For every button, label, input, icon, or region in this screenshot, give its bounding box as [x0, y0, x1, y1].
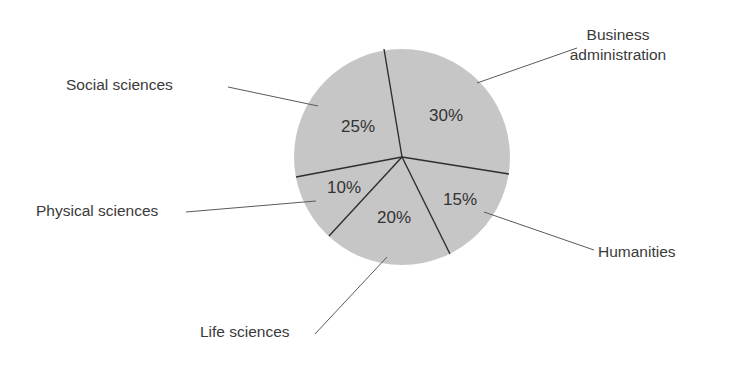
pie-chart: 30%15%20%10%25% BusinessadministrationHu…: [0, 0, 745, 365]
percent-label-physical-sciences: 10%: [327, 178, 361, 197]
leader-line-social-sciences: [228, 87, 318, 106]
leader-line-life-sciences: [315, 257, 387, 334]
leader-line-business-administration: [477, 48, 577, 83]
leader-line-humanities: [484, 212, 594, 250]
category-label-physical-sciences: Physical sciences: [36, 202, 159, 219]
category-label-social-sciences: Social sciences: [66, 76, 173, 93]
category-label-life-sciences: Life sciences: [200, 323, 290, 340]
leader-line-physical-sciences: [186, 201, 316, 212]
percent-label-business-administration: 30%: [429, 106, 463, 125]
percent-label-life-sciences: 20%: [377, 208, 411, 227]
category-label-business-administration: Businessadministration: [570, 26, 667, 63]
percent-label-humanities: 15%: [443, 190, 477, 209]
percent-label-social-sciences: 25%: [341, 117, 375, 136]
category-label-humanities: Humanities: [598, 243, 676, 260]
